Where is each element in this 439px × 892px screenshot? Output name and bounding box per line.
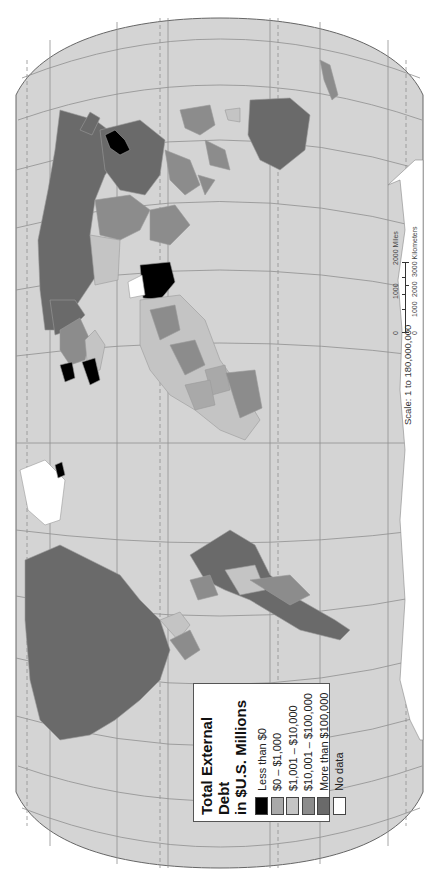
legend-swatch — [286, 797, 299, 815]
legend-title: Total External Debt in $U.S. Millions — [198, 690, 249, 815]
legend-swatch — [271, 797, 284, 815]
scale-tick — [402, 309, 406, 310]
legend-label: No data — [333, 752, 345, 791]
scale-km-3000: 3000 Kilometers — [411, 226, 418, 277]
scale-tick — [405, 285, 409, 286]
legend-item-1001-10000: $1,001 – $10,000 — [285, 690, 301, 815]
scale-km-0: 0 — [411, 331, 418, 335]
scale-miles-0: 0 — [392, 331, 399, 335]
scale-panel: Scale: 1 to 180,000,000 0 1000 2000 Mile… — [388, 235, 428, 425]
legend-label: $0 – $1,000 — [271, 733, 283, 791]
legend: Total External Debt in $U.S. Millions Le… — [193, 683, 330, 822]
legend-swatch — [317, 797, 330, 815]
legend-label: More than $100,000 — [318, 693, 330, 791]
scale-bar: Scale: 1 to 180,000,000 0 1000 2000 Mile… — [388, 235, 428, 425]
scale-tick — [402, 277, 406, 278]
legend-item-10001-100000: $10,001 – $100,000 — [301, 690, 317, 815]
scale-km-2000: 2000 — [411, 281, 418, 297]
scale-label: Scale: 1 to 180,000,000 — [402, 325, 413, 425]
legend-label: Less than $0 — [256, 728, 268, 791]
scale-tick — [402, 332, 409, 333]
legend-panel: Total External Debt in $U.S. Millions Le… — [193, 683, 330, 822]
legend-swatch — [302, 797, 315, 815]
scale-miles-2000: 2000 Miles — [392, 231, 399, 265]
scale-line — [405, 263, 406, 333]
legend-item-more-than-100000: More than $100,000 — [316, 690, 332, 815]
legend-label: $1,001 – $10,000 — [287, 705, 299, 791]
scale-tick — [402, 294, 406, 295]
scale-miles-1000: 1000 — [392, 283, 399, 299]
legend-item-0-1000: $0 – $1,000 — [270, 690, 286, 815]
legend-title-line2: in $U.S. Millions — [232, 690, 249, 815]
legend-swatch — [333, 797, 346, 815]
scale-km-1000: 1000 — [411, 301, 418, 317]
legend-label: $10,001 – $100,000 — [302, 693, 314, 791]
legend-swatch — [255, 797, 268, 815]
legend-title-line1: Total External Debt — [198, 690, 232, 815]
legend-item-less-than-0: Less than $0 — [254, 690, 270, 815]
scale-tick — [402, 262, 409, 263]
legend-item-no-data: No data — [332, 690, 348, 815]
